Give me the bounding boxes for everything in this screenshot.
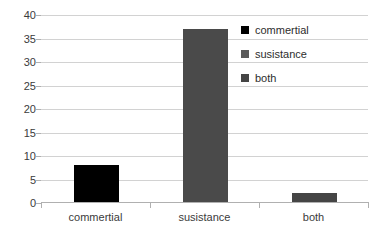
bar-susistance: [183, 29, 228, 202]
x-axis-line: [41, 202, 369, 203]
legend-label: susistance: [255, 48, 307, 60]
x-tick-mark: [259, 203, 260, 208]
y-tick-label: 15: [4, 128, 36, 139]
legend-item-both: both: [241, 66, 369, 90]
y-tick-label: 40: [4, 10, 36, 21]
legend-item-commertial: commertial: [241, 18, 369, 42]
legend-swatch-icon: [241, 26, 249, 34]
y-tick-label: 0: [4, 198, 36, 209]
legend-label: both: [255, 72, 276, 84]
legend: commertial susistance both: [241, 18, 369, 90]
bar-chart: 40 35 30 25 20 15 10 5 0: [0, 0, 377, 234]
legend-label: commertial: [255, 24, 309, 36]
bar-commertial: [74, 165, 119, 202]
x-tick-mark: [368, 203, 369, 208]
y-tick-label: 35: [4, 34, 36, 45]
x-tick-label-commertial: commertial: [41, 211, 150, 224]
x-tick-mark: [41, 203, 42, 208]
y-tick-label: 25: [4, 81, 36, 92]
y-tick-label: 30: [4, 57, 36, 68]
x-tick-mark: [150, 203, 151, 208]
y-tick-label: 5: [4, 175, 36, 186]
y-tick-label: 20: [4, 104, 36, 115]
x-tick-label-susistance: susistance: [150, 211, 259, 224]
bar-both: [292, 193, 337, 202]
x-tick-label-both: both: [259, 211, 368, 224]
legend-swatch-icon: [241, 74, 249, 82]
legend-item-susistance: susistance: [241, 42, 369, 66]
y-axis-ticks: 40 35 30 25 20 15 10 5 0: [0, 15, 36, 203]
y-tick-label: 10: [4, 151, 36, 162]
legend-swatch-icon: [241, 50, 249, 58]
